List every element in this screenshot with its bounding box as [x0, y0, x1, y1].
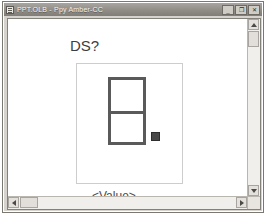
close-button[interactable]: ✕ — [248, 5, 260, 15]
slide-title[interactable]: DS? — [70, 37, 99, 54]
triangle-up-icon — [251, 23, 257, 27]
title-bar[interactable]: PPT.OLB - Ppy Amber-CC _ ❐ ✕ — [4, 3, 262, 16]
scroll-down-icon[interactable] — [248, 185, 259, 196]
triangle-down-icon — [251, 189, 257, 193]
document-icon — [6, 6, 14, 14]
table-row-divider — [111, 111, 143, 114]
document-client-area: DS? <Value> — [7, 18, 261, 210]
triangle-left-icon — [12, 200, 16, 206]
minimize-button[interactable]: _ — [222, 5, 234, 15]
triangle-right-icon — [240, 200, 244, 206]
scrollbar-corner — [247, 196, 260, 209]
application-window: PPT.OLB - Ppy Amber-CC _ ❐ ✕ DS? <Value> — [2, 1, 264, 213]
minimize-icon: _ — [223, 7, 233, 15]
vertical-scrollbar-thumb[interactable] — [248, 31, 259, 47]
horizontal-scrollbar[interactable] — [8, 196, 247, 209]
slide-canvas[interactable]: DS? <Value> — [8, 19, 247, 196]
table-shape[interactable] — [108, 77, 146, 145]
window-title: PPT.OLB - Ppy Amber-CC — [17, 5, 221, 14]
scroll-right-icon[interactable] — [236, 197, 247, 208]
horizontal-scrollbar-thumb[interactable] — [20, 197, 38, 208]
maximize-button[interactable]: ❐ — [235, 5, 247, 15]
scroll-left-icon[interactable] — [8, 197, 19, 208]
close-icon: ✕ — [249, 6, 259, 14]
scroll-up-icon[interactable] — [248, 19, 259, 30]
vertical-scrollbar[interactable] — [247, 19, 260, 196]
value-placeholder-label[interactable]: <Value> — [92, 189, 136, 196]
maximize-icon: ❐ — [236, 6, 246, 14]
content-placeholder-frame[interactable] — [76, 63, 183, 184]
selection-resize-handle[interactable] — [151, 132, 160, 141]
